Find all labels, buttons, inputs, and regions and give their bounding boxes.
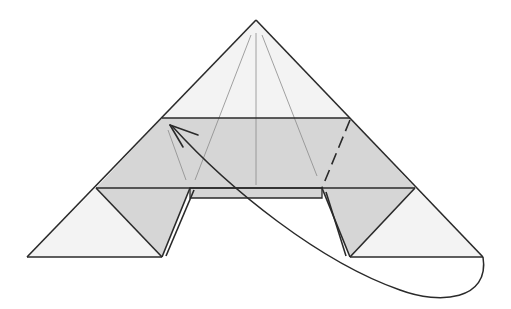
origami-diagram <box>0 0 511 309</box>
shaded-band <box>96 118 415 188</box>
inner-rectangle <box>190 188 322 198</box>
